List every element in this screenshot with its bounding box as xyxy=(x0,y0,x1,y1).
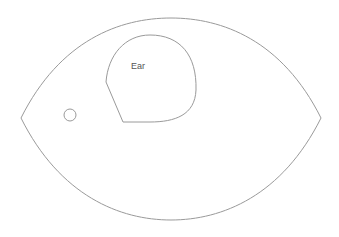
ear-label: Ear xyxy=(131,61,145,71)
ear-region-shape xyxy=(106,35,196,122)
diagram-canvas: Ear xyxy=(0,0,339,237)
eye-dot-circle xyxy=(64,109,76,121)
